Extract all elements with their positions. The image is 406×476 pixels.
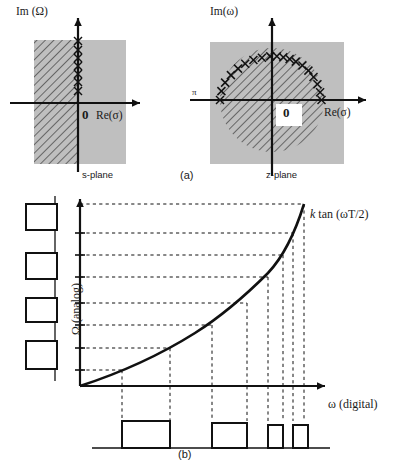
s-plane-name-label: s-plane — [82, 170, 113, 180]
warping-curve — [80, 204, 304, 386]
s-plane-imag-label: Im (Ω) — [16, 6, 48, 18]
z-plane-imag-label: Im(ω) — [210, 6, 238, 18]
z-plane-real-label: Re(σ) — [324, 107, 351, 119]
s-plane-imag-arrow — [74, 18, 82, 26]
analog-box — [26, 341, 57, 369]
z-plane-svg — [188, 0, 406, 195]
s-plane-origin-label: 0 — [82, 108, 89, 121]
s-plane-real-arrow — [132, 99, 140, 107]
analog-axis-label: Ω (analog) — [70, 283, 82, 335]
figure-bilinear-warping: Im (Ω) Re(σ) 0 s-plane — [0, 0, 406, 476]
analog-y-arrow — [76, 199, 84, 207]
s-plane-real-label: Re(σ) — [96, 110, 123, 122]
caption-a: (a) — [180, 170, 193, 181]
caption-b: (b) — [178, 449, 191, 460]
digital-box — [122, 421, 170, 448]
z-plane-panel: Im(ω) Re(σ) 0 π z-plane — [188, 0, 406, 195]
z-plane-name-label: z-plane — [266, 170, 297, 180]
analog-box — [26, 253, 57, 279]
horizontal-gridlines — [75, 204, 304, 370]
digital-box — [293, 425, 308, 448]
z-plane-real-arrow — [358, 96, 366, 104]
digital-axis-label: ω (digital) — [328, 398, 378, 410]
analog-box — [26, 204, 57, 230]
digital-x-arrow — [317, 382, 325, 390]
digital-box — [268, 425, 283, 448]
vertical-droplines — [122, 204, 304, 421]
z-plane-pi-label: π — [192, 88, 197, 97]
curve-equation-label: k tan (ωT/2) — [310, 208, 369, 220]
analog-box — [26, 298, 57, 322]
warping-svg — [0, 193, 406, 476]
s-plane-panel: Im (Ω) Re(σ) 0 s-plane — [0, 0, 200, 195]
z-plane-imag-arrow — [268, 18, 276, 26]
z-plane-origin-label: 0 — [283, 106, 290, 119]
s-plane-svg — [0, 0, 200, 195]
curve-equation-rest: tan (ωT/2) — [315, 207, 368, 221]
analog-boxes — [26, 204, 57, 369]
digital-boxes — [122, 421, 308, 448]
digital-box — [212, 423, 247, 448]
warping-panel: k tan (ωT/2) ω (digital) Ω (analog) (b) — [0, 193, 406, 476]
